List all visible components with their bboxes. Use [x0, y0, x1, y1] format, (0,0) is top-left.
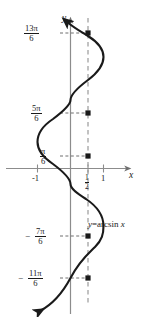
point-pi-6	[85, 153, 90, 158]
fraction-13pi-6: 13π 6	[24, 24, 39, 43]
y-tick-label-minus-7pi-6: − 7π 6	[25, 227, 46, 246]
fraction-5pi-6: 5π 6	[31, 104, 42, 123]
minus-sign-11pi-6: −	[18, 274, 24, 283]
point-5pi-6	[85, 110, 90, 115]
x-tick-label-one-half: 1 2	[85, 173, 89, 190]
y-tick-label-pi-6: π 6	[40, 147, 46, 166]
fraction-7pi-6: 7π 6	[35, 227, 46, 246]
y-axis-label: y	[62, 14, 66, 24]
fraction-one-half: 1 2	[85, 174, 89, 190]
x-axis-label: x	[129, 171, 133, 181]
fraction-11pi-6: 11π 6	[28, 269, 42, 288]
equation-annotation: y=arcsin x	[88, 220, 125, 229]
x-tick-label-minus-1: -1	[32, 174, 39, 183]
y-tick-label-13pi-6: 13π 6	[24, 24, 39, 43]
y-tick-label-minus-11pi-6: − 11π 6	[18, 269, 43, 288]
point-minus-11pi-6	[85, 275, 90, 280]
arcsin-figure: y x 13π 6 5π 6 π 6 −	[0, 0, 144, 317]
minus-sign-7pi-6: −	[25, 232, 31, 241]
fraction-pi-6: π 6	[40, 147, 46, 166]
equation-arcsin: arcsin	[97, 219, 119, 229]
equation-x: x	[121, 219, 125, 229]
y-tick-label-5pi-6: 5π 6	[31, 104, 42, 123]
point-minus-7pi-6	[85, 233, 90, 238]
point-13pi-6	[85, 30, 90, 35]
x-tick-label-1: 1	[101, 174, 105, 183]
